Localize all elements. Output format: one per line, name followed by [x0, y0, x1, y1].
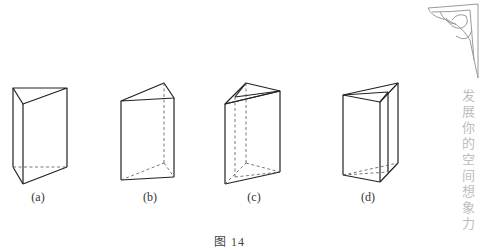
prism-diagrams [0, 0, 481, 251]
prism-b [121, 83, 174, 180]
prism-a [13, 88, 67, 184]
side-title: 发展你的空间想象力 [460, 88, 476, 232]
figure-label-d: (d) [348, 190, 388, 205]
figure-label-c: (c) [234, 190, 274, 205]
corner-ornament-icon [428, 4, 478, 78]
figure-label-a: (a) [18, 190, 58, 205]
prism-d [343, 83, 398, 182]
prism-c [225, 83, 280, 184]
figure-caption: 图 14 [214, 232, 245, 250]
figure-label-b: (b) [130, 190, 170, 205]
